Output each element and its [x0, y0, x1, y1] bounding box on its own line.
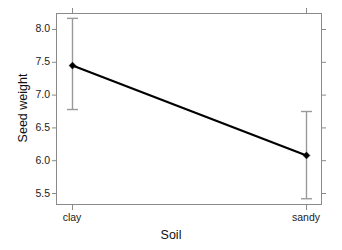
error-bars — [67, 18, 312, 198]
chart-canvas — [0, 0, 342, 250]
chart-page: 5.5 6.0 6.5 7.0 7.5 8.0 clay sandy Soil … — [0, 0, 342, 250]
series-line — [73, 66, 307, 156]
axis-ticks — [52, 8, 326, 210]
